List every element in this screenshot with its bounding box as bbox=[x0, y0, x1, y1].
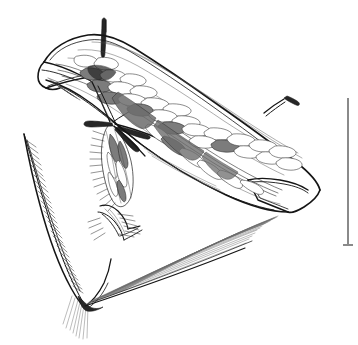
figure-root: Grass spikelet line illustration grass f… bbox=[0, 0, 358, 345]
botanical-illustration bbox=[0, 0, 358, 345]
paper-background bbox=[0, 0, 358, 345]
